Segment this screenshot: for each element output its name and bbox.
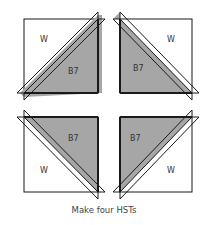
label-fabric-bottom-left: B7 bbox=[68, 134, 79, 143]
label-white-top-right: W bbox=[167, 35, 175, 44]
label-fabric-top-left: B7 bbox=[68, 67, 79, 76]
label-white-bottom-left: W bbox=[40, 166, 48, 175]
hst-block-bottom-right bbox=[113, 110, 199, 199]
hst-block-top-right bbox=[113, 12, 199, 100]
hst-block-bottom-left bbox=[17, 110, 105, 199]
caption: Make four HSTs bbox=[0, 205, 208, 215]
label-fabric-top-right: B7 bbox=[133, 64, 144, 73]
label-white-top-left: W bbox=[40, 35, 48, 44]
hst-diagram bbox=[0, 0, 208, 225]
label-white-bottom-right: W bbox=[167, 166, 175, 175]
label-fabric-bottom-right: B7 bbox=[130, 134, 141, 143]
hst-block-top-left bbox=[17, 12, 105, 100]
